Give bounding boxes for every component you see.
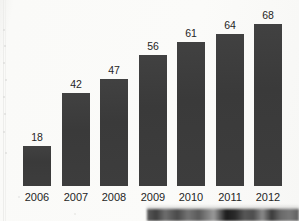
- axis-tick-label-2012: 2012: [249, 191, 287, 203]
- bar-value-label-2009: 56: [139, 40, 167, 52]
- axis-tick-label-2007: 2007: [57, 191, 95, 203]
- axis-tick-label-2006: 2006: [18, 191, 56, 203]
- bar-2006: [23, 146, 51, 186]
- axis-tick-label-2010: 2010: [172, 191, 210, 203]
- axis-tick-label-2011: 2011: [211, 191, 249, 203]
- bar-value-label-2011: 64: [216, 19, 244, 31]
- bar-2009: [139, 55, 167, 186]
- bar-value-label-2006: 18: [23, 131, 51, 143]
- bar-value-label-2007: 42: [62, 78, 90, 90]
- axis-tick-label-2008: 2008: [95, 191, 133, 203]
- bar-2012: [254, 24, 282, 186]
- bar-2011: [216, 34, 244, 186]
- axis-tick-label-2009: 2009: [134, 191, 172, 203]
- bar-value-label-2008: 47: [100, 64, 128, 76]
- bar-2010: [177, 42, 205, 186]
- bar-value-label-2012: 68: [254, 9, 282, 21]
- bleed-through-band: [147, 209, 299, 221]
- bar-2008: [100, 79, 128, 186]
- bar-2007: [62, 93, 90, 186]
- bar-chart-figure: 18 2006 42 2007 47 2008 56 2009 61 2010 …: [0, 0, 299, 221]
- bar-value-label-2010: 61: [177, 27, 205, 39]
- plot-area: 18 2006 42 2007 47 2008 56 2009 61 2010 …: [0, 0, 299, 221]
